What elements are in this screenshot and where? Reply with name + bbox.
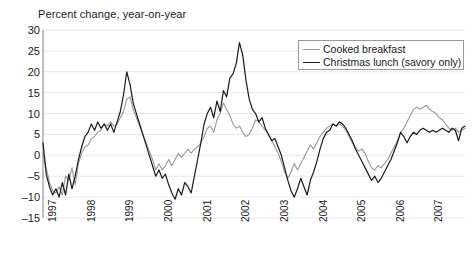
- chart-container: Percent change, year-on-year 30252015105…: [0, 0, 474, 268]
- x-tick-label: 2005: [356, 200, 367, 222]
- x-tick-label: 1997: [47, 200, 58, 222]
- legend-item-christmas-lunch: Christmas lunch (savory only): [303, 56, 459, 69]
- legend-swatch-christmas-lunch: [303, 62, 320, 63]
- legend-label-christmas-lunch: Christmas lunch (savory only): [323, 56, 461, 69]
- x-tick-label: 1998: [86, 200, 97, 222]
- x-tick-label: 2003: [279, 200, 290, 222]
- x-tick-label: 2007: [433, 200, 444, 222]
- x-tick-label: 2002: [240, 200, 251, 222]
- chart-legend: Cooked breakfast Christmas lunch (savory…: [298, 40, 464, 70]
- legend-label-cooked-breakfast: Cooked breakfast: [323, 43, 405, 56]
- x-tick-label: 2001: [202, 200, 213, 222]
- x-tick-label: 2004: [318, 200, 329, 222]
- legend-swatch-cooked-breakfast: [303, 49, 320, 50]
- legend-item-cooked-breakfast: Cooked breakfast: [303, 43, 459, 56]
- x-tick-label: 2006: [395, 200, 406, 222]
- x-tick-label: 1999: [124, 200, 135, 222]
- x-tick-label: 2000: [163, 200, 174, 222]
